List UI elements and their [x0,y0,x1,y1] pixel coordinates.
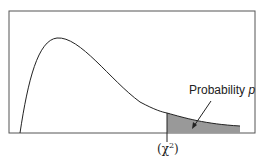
probability-variable: p [248,83,255,97]
probability-text: Probability [189,83,245,97]
critical-value-label: (χ2) [157,141,179,156]
plot-frame [9,11,255,133]
chi-square-diagram [0,0,268,159]
probability-label: Probability p [189,83,255,97]
chi-symbol: χ [162,142,169,156]
chi-exponent: 2 [169,141,174,150]
